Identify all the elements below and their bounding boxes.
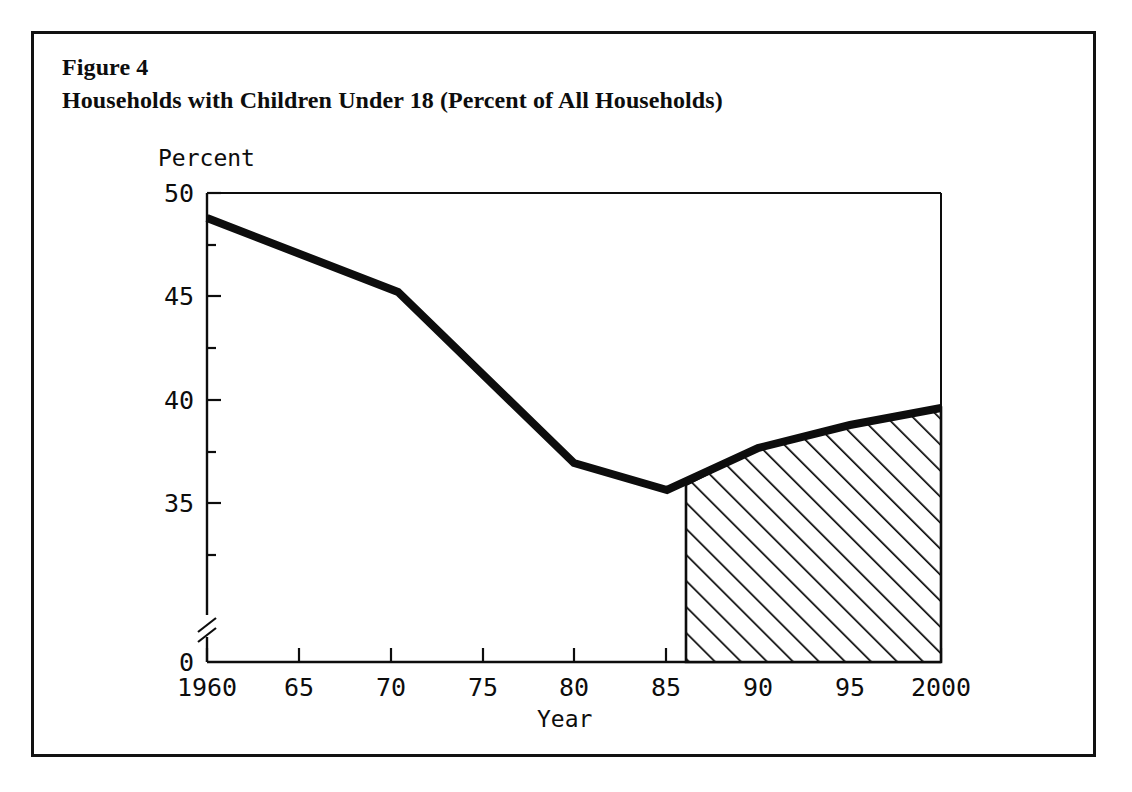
y-tick-label-35: 35 (164, 489, 194, 518)
y-tick-label-45: 45 (164, 282, 194, 311)
x-tick-label-85: 85 (651, 673, 681, 702)
chart-canvas: Percent Year 50 45 40 35 0 1960 65 70 75… (0, 0, 1132, 792)
x-tick-label-80: 80 (559, 673, 589, 702)
x-tick-label-95: 95 (835, 673, 865, 702)
x-tick-label-70: 70 (376, 673, 406, 702)
x-tick-label-75: 75 (468, 673, 498, 702)
x-axis-title: Year (537, 706, 592, 732)
figure-root: Figure 4 Households with Children Under … (0, 0, 1132, 792)
x-tick-label-90: 90 (743, 673, 773, 702)
x-tick-label-2000: 2000 (911, 673, 971, 702)
y-tick-label-40: 40 (164, 386, 194, 415)
projection-hatched-region (686, 400, 942, 662)
x-tick-label-65: 65 (284, 673, 314, 702)
y-axis-title: Percent (158, 145, 255, 171)
y-tick-label-50: 50 (164, 179, 194, 208)
x-tick-label-1960: 1960 (177, 673, 237, 702)
